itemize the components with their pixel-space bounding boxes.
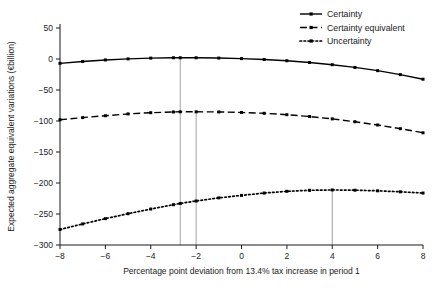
data-point-uncertainty xyxy=(81,222,84,225)
data-point-certainty xyxy=(399,73,402,76)
data-point-uncertainty xyxy=(149,208,152,211)
data-point-certainty-equivalent xyxy=(81,116,84,119)
data-point-uncertainty xyxy=(353,189,356,192)
data-point-uncertainty xyxy=(399,190,402,193)
data-point-uncertainty xyxy=(376,189,379,192)
y-tick-label: −300 xyxy=(34,240,53,250)
data-point-certainty xyxy=(127,57,130,60)
data-point-uncertainty xyxy=(127,212,130,215)
data-point-certainty-equivalent xyxy=(195,110,198,113)
data-point-certainty xyxy=(240,57,243,60)
data-point-uncertainty xyxy=(263,192,266,195)
data-point-uncertainty xyxy=(217,196,220,199)
data-point-certainty xyxy=(285,59,288,62)
x-tick-label: −8 xyxy=(55,251,65,261)
y-tick-label: −100 xyxy=(34,116,53,126)
data-point-certainty xyxy=(331,63,334,66)
data-point-uncertainty xyxy=(422,192,425,195)
data-point-certainty-equivalent xyxy=(285,113,288,116)
chart-container: 500−50−100−150−200−250−300−8−6−4−202468P… xyxy=(0,0,436,291)
data-point-certainty-equivalent xyxy=(104,114,107,117)
data-point-certainty xyxy=(81,60,84,63)
data-point-certainty xyxy=(149,57,152,60)
data-point-uncertainty xyxy=(104,217,107,220)
data-point-uncertainty xyxy=(331,188,334,191)
series-line-certainty-equivalent xyxy=(60,112,423,133)
y-tick-label: −50 xyxy=(39,85,54,95)
data-point-certainty-equivalent xyxy=(59,118,62,121)
legend-marker-certainty xyxy=(310,12,313,15)
data-point-certainty-equivalent xyxy=(353,120,356,123)
data-point-certainty-equivalent xyxy=(422,131,425,134)
legend-label-certainty: Certainty xyxy=(327,9,363,19)
data-point-certainty-equivalent xyxy=(376,123,379,126)
legend-marker-uncertainty xyxy=(310,39,313,42)
data-point-certainty xyxy=(422,78,425,81)
x-tick-label: −6 xyxy=(101,251,111,261)
data-point-certainty xyxy=(195,56,198,59)
x-tick-label: −4 xyxy=(146,251,156,261)
y-tick-label: −200 xyxy=(34,178,53,188)
y-tick-label: −250 xyxy=(34,209,53,219)
data-point-uncertainty xyxy=(59,228,62,231)
data-point-uncertainty xyxy=(285,190,288,193)
x-tick-label: 0 xyxy=(239,251,244,261)
data-point-certainty-equivalent xyxy=(179,110,182,113)
data-point-uncertainty xyxy=(195,199,198,202)
x-tick-label: 4 xyxy=(330,251,335,261)
data-point-certainty-equivalent xyxy=(263,112,266,115)
x-tick-label: 6 xyxy=(375,251,380,261)
chart-plot: 500−50−100−150−200−250−300−8−6−4−202468P… xyxy=(0,0,436,291)
data-point-certainty xyxy=(172,56,175,59)
data-point-certainty xyxy=(179,56,182,59)
data-point-certainty xyxy=(217,57,220,60)
legend-marker-certainty-equivalent xyxy=(310,26,313,29)
data-point-certainty-equivalent xyxy=(172,110,175,113)
y-tick-label: 50 xyxy=(44,23,54,33)
data-point-certainty xyxy=(353,66,356,69)
data-point-uncertainty xyxy=(308,189,311,192)
data-point-certainty xyxy=(376,69,379,72)
data-point-certainty xyxy=(308,61,311,64)
data-point-uncertainty xyxy=(179,202,182,205)
data-point-certainty xyxy=(263,58,266,61)
data-point-certainty-equivalent xyxy=(308,115,311,118)
legend-label-uncertainty: Uncertainty xyxy=(327,36,372,46)
y-tick-label: 0 xyxy=(48,54,53,64)
data-point-certainty-equivalent xyxy=(127,112,130,115)
data-point-certainty xyxy=(59,62,62,65)
data-point-uncertainty xyxy=(240,194,243,197)
x-axis-title: Percentage point deviation from 13.4% ta… xyxy=(123,266,360,276)
x-tick-label: 2 xyxy=(285,251,290,261)
data-point-certainty-equivalent xyxy=(149,111,152,114)
data-point-certainty-equivalent xyxy=(240,111,243,114)
data-point-uncertainty xyxy=(172,203,175,206)
x-tick-label: −2 xyxy=(191,251,201,261)
y-axis-title: Expected aggregate equivalent variations… xyxy=(6,41,16,232)
data-point-certainty-equivalent xyxy=(399,127,402,130)
legend-label-certainty-equivalent: Certainty equivalent xyxy=(327,23,405,33)
data-point-certainty-equivalent xyxy=(217,110,220,113)
y-tick-label: −150 xyxy=(34,147,53,157)
data-point-certainty xyxy=(104,58,107,61)
series-line-certainty xyxy=(60,58,423,79)
x-tick-label: 8 xyxy=(421,251,426,261)
data-point-certainty-equivalent xyxy=(331,117,334,120)
